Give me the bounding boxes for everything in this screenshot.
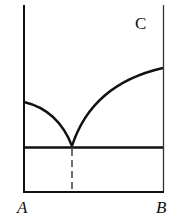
left-liquidus-curve [24,102,72,146]
region-label-c: C [135,15,146,32]
axis-label-a: A [17,199,27,216]
axis-label-b: B [156,199,166,216]
right-liquidus-curve [72,68,163,146]
phase-diagram [0,0,181,217]
